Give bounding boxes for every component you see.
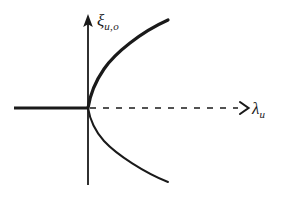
horizontal-axis-label-subscript: u <box>259 108 265 120</box>
lower-parabola-branch <box>88 108 168 182</box>
horizontal-axis-arrowhead <box>240 102 249 114</box>
vertical-axis-label: ξu,o <box>97 12 119 32</box>
upper-parabola-branch <box>88 20 168 108</box>
diagram-canvas <box>0 0 284 200</box>
horizontal-axis-label: λu <box>252 100 265 120</box>
bifurcation-figure: ξu,o λu <box>0 0 284 200</box>
vertical-axis-label-subscript: u,o <box>104 20 119 32</box>
